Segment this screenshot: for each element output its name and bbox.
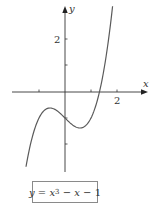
function-plot: x y 2 2 bbox=[0, 0, 155, 209]
y-axis-arrow-icon bbox=[62, 6, 67, 13]
y-tick-label-2: 2 bbox=[54, 34, 60, 45]
eq-rest: − 1 bbox=[80, 187, 101, 198]
eq-equals: = bbox=[35, 187, 50, 198]
x-axis-arrow-icon bbox=[141, 89, 148, 94]
y-axis-label: y bbox=[68, 3, 75, 14]
x-tick-label-2: 2 bbox=[114, 95, 120, 106]
eq-minus: − bbox=[60, 187, 75, 198]
equation-legend-box: y = x3 − x − 1 bbox=[32, 181, 98, 203]
cubic-curve bbox=[26, 6, 113, 167]
x-axis-label: x bbox=[143, 78, 149, 89]
